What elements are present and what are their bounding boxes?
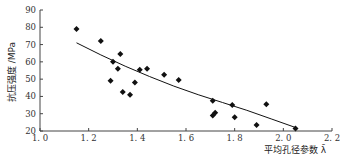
y-tick-label: 60: [25, 57, 36, 67]
x-tick-label: 1. 2: [81, 133, 97, 143]
diamond-marker: [263, 101, 269, 107]
y-tick-label: 70: [25, 40, 36, 50]
y-axis-title: 抗压强度 /MPa: [6, 42, 17, 102]
scatter-chart: 20304050607080901. 01. 21. 41. 61. 82. 0…: [0, 0, 346, 166]
y-tick-label: 80: [25, 22, 36, 32]
y-tick-label: 40: [25, 91, 36, 101]
fit-line-path: [77, 43, 296, 128]
diamond-marker: [161, 72, 167, 78]
diamond-marker: [132, 80, 138, 86]
x-tick-label: 1. 6: [178, 133, 194, 143]
diamond-marker: [254, 122, 260, 128]
diamond-marker: [74, 26, 80, 32]
diamond-marker: [108, 78, 114, 84]
diamond-marker: [115, 66, 121, 72]
fit-curve: [77, 43, 296, 128]
x-tick-label: 1. 4: [129, 133, 145, 143]
y-tick-label: 30: [25, 109, 36, 119]
diamond-marker: [229, 102, 235, 108]
x-axis-title: 平均孔径参数 λ̄: [264, 144, 327, 155]
diamond-marker: [127, 92, 133, 98]
data-points: [74, 26, 299, 131]
diamond-marker: [98, 38, 104, 44]
x-tick-label: 1. 0: [32, 133, 48, 143]
x-tick-label: 2. 0: [275, 133, 291, 143]
diamond-marker: [144, 66, 150, 72]
axes: 20304050607080901. 01. 21. 41. 61. 82. 0…: [25, 5, 340, 143]
x-tick-label: 1. 8: [227, 133, 243, 143]
diamond-marker: [232, 114, 238, 120]
diamond-marker: [117, 51, 123, 57]
y-tick-label: 90: [25, 5, 36, 15]
diamond-marker: [176, 77, 182, 83]
y-tick-label: 50: [25, 74, 36, 84]
diamond-marker: [120, 89, 126, 95]
x-tick-label: 2. 2: [324, 133, 340, 143]
